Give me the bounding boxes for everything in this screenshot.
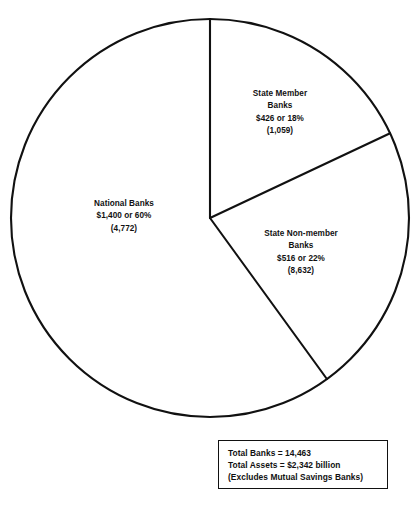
totals-line-total-banks: Total Banks = 14,463 — [228, 447, 387, 459]
slice-label-line: State Non-member — [227, 228, 375, 240]
slice-label-line: Banks — [219, 100, 341, 112]
pie-chart-figure: State Member Banks $426 or 18% (1,059) N… — [0, 0, 416, 506]
totals-line-exclusion-note: (Excludes Mutual Savings Banks) — [228, 471, 387, 483]
slice-label-line: State Member — [219, 88, 341, 100]
slice-label-national-banks: National Banks $1,400 or 60% (4,772) — [57, 198, 191, 235]
slice-label-line: (8,632) — [227, 265, 375, 277]
slice-label-line: (4,772) — [57, 223, 191, 235]
slice-label-line: $1,400 or 60% — [57, 210, 191, 222]
slice-label-state-non-member-banks: State Non-member Banks $516 or 22% (8,63… — [227, 228, 375, 278]
totals-annotation-box: Total Banks = 14,463 Total Assets = $2,3… — [218, 440, 388, 489]
slice-label-line: $426 or 18% — [219, 113, 341, 125]
slice-label-line: (1,059) — [219, 125, 341, 137]
slice-label-line: Banks — [227, 240, 375, 252]
slice-label-state-member-banks: State Member Banks $426 or 18% (1,059) — [219, 88, 341, 138]
slice-label-line: National Banks — [57, 198, 191, 210]
slice-label-line: $516 or 22% — [227, 253, 375, 265]
totals-line-total-assets: Total Assets = $2,342 billion — [228, 459, 387, 471]
